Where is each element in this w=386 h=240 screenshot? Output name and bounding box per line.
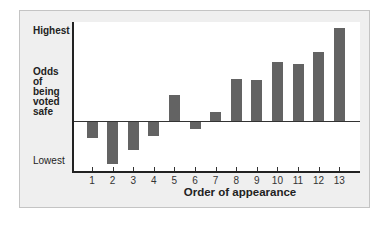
bar xyxy=(190,121,201,129)
bar xyxy=(293,64,304,121)
zero-line xyxy=(72,121,360,122)
y-axis-title: Odds of being voted safe xyxy=(33,67,60,117)
x-tick-label: 12 xyxy=(309,175,329,186)
x-tick-label: 1 xyxy=(82,175,102,186)
x-tick-label: 8 xyxy=(226,175,246,186)
bar xyxy=(148,121,159,136)
bar xyxy=(128,121,139,150)
x-tick-label: 2 xyxy=(103,175,123,186)
x-tick-label: 13 xyxy=(329,175,349,186)
x-tick-label: 5 xyxy=(164,175,184,186)
x-tick-label: 7 xyxy=(206,175,226,186)
bar xyxy=(107,121,118,164)
x-tick-label: 10 xyxy=(267,175,287,186)
y-label-lowest: Lowest xyxy=(33,156,65,166)
y-axis xyxy=(72,22,74,172)
bar xyxy=(272,62,283,121)
x-tick-label: 3 xyxy=(123,175,143,186)
y-title-line: safe xyxy=(33,107,60,117)
y-label-highest: Highest xyxy=(33,26,70,36)
bar xyxy=(210,112,221,121)
bar xyxy=(313,52,324,121)
x-axis xyxy=(72,171,360,173)
x-tick-label: 4 xyxy=(144,175,164,186)
bar xyxy=(87,121,98,138)
bar xyxy=(251,80,262,121)
bar xyxy=(231,79,242,121)
x-axis-title: Order of appearance xyxy=(140,186,340,198)
x-tick-label: 6 xyxy=(185,175,205,186)
bar xyxy=(169,95,180,121)
x-tick-label: 11 xyxy=(288,175,308,186)
bar xyxy=(334,28,345,121)
x-tick-label: 9 xyxy=(247,175,267,186)
